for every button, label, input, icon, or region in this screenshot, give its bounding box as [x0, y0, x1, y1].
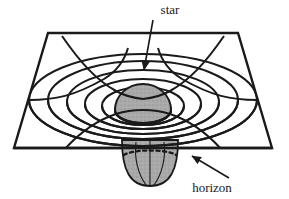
label-star: star [161, 2, 180, 17]
horizon-pointer [192, 156, 229, 178]
label-horizon: horizon [192, 180, 232, 195]
figure-root: star horizon [0, 0, 289, 199]
spacetime-funnel-diagram: star horizon [0, 0, 289, 199]
horizon-arrow [192, 156, 229, 178]
